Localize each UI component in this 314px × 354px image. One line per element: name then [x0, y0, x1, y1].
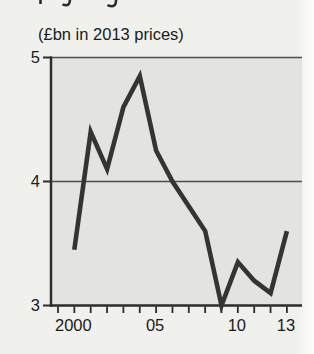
chart-panel: (£bn in 2013 prices) 543 2000051013	[0, 0, 314, 354]
x-axis-ticks	[58, 307, 287, 314]
y-tick-label: 5	[31, 48, 40, 66]
y-axis-labels: 543	[31, 48, 40, 314]
chart-subtitle: (£bn in 2013 prices)	[38, 25, 184, 43]
descender-mark	[109, 0, 117, 6]
line-chart: (£bn in 2013 prices) 543 2000051013	[0, 0, 314, 354]
y-tick-label: 4	[31, 172, 40, 190]
x-tick-label: 05	[146, 316, 164, 334]
y-tick-label: 3	[31, 296, 40, 314]
x-tick-label: 2000	[55, 316, 92, 334]
x-axis-labels: 2000051013	[55, 316, 295, 334]
x-tick-label: 10	[228, 316, 246, 334]
descender-mark	[64, 0, 71, 5]
cropped-title-descenders	[41, 0, 117, 6]
x-tick-label: 13	[277, 316, 295, 334]
